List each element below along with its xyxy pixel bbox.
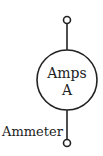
top-terminal-icon [64,17,71,24]
meter-unit-text: Amps [46,65,87,81]
bottom-terminal-icon [64,140,71,147]
ammeter-symbol: Amps A Ammeter [0,0,103,156]
component-label: Ammeter [1,124,64,139]
meter-symbol-letter: A [61,82,73,98]
ammeter-diagram: Amps A Ammeter [0,0,103,156]
